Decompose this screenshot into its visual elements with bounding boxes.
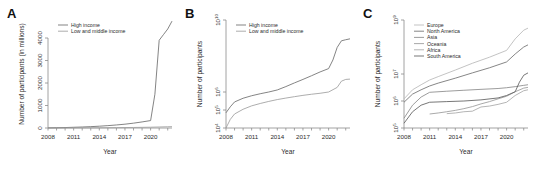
svg-text:2008: 2008 [41,133,55,140]
panel-c: C 10510610710920082011201420172020YearNu… [356,0,534,171]
svg-text:Asia: Asia [427,34,437,40]
svg-text:2000: 2000 [36,76,43,90]
panel-a: A 0100020003000400020082011201420172020Y… [0,0,178,171]
svg-text:Oceania: Oceania [427,41,446,47]
svg-text:Number of participants (in mil: Number of participants (in millions) [18,23,26,125]
svg-text:2014: 2014 [92,133,106,140]
svg-text:105: 105 [392,123,399,133]
svg-text:1010: 1010 [214,14,221,26]
svg-text:Low and middle income: Low and middle income [249,28,304,34]
svg-text:Low and middle income: Low and middle income [71,28,126,34]
svg-text:109: 109 [392,15,399,25]
svg-text:2014: 2014 [448,133,462,140]
panel-b-plot: 104105106101020082011201420172020YearNum… [178,0,356,171]
svg-text:2011: 2011 [245,133,259,140]
panel-c-plot: 10510610710920082011201420172020YearNumb… [356,0,534,171]
svg-text:2017: 2017 [474,133,488,140]
panel-b: B 104105106101020082011201420172020YearN… [178,0,356,171]
svg-text:Number of participants: Number of participants [374,40,382,107]
figure-container: A 0100020003000400020082011201420172020Y… [0,0,534,171]
svg-text:2020: 2020 [144,133,158,140]
svg-text:2011: 2011 [67,133,81,140]
svg-text:Year: Year [103,148,117,155]
svg-text:104: 104 [214,123,221,133]
svg-text:107: 107 [392,69,399,79]
svg-text:2008: 2008 [219,133,233,140]
svg-text:Africa: Africa [427,47,440,53]
svg-text:2020: 2020 [322,133,336,140]
svg-text:4000: 4000 [36,31,43,45]
svg-text:106: 106 [392,96,399,106]
svg-text:2008: 2008 [397,133,411,140]
svg-text:1000: 1000 [36,98,43,112]
svg-text:High income: High income [249,22,278,28]
svg-text:106: 106 [214,87,221,97]
svg-text:Europe: Europe [427,22,444,28]
svg-text:High income: High income [71,22,100,28]
svg-text:2017: 2017 [118,133,132,140]
svg-text:Year: Year [281,148,295,155]
svg-text:0: 0 [36,126,43,130]
svg-text:2017: 2017 [296,133,310,140]
svg-text:South America: South America [427,53,461,59]
svg-text:Number of participants: Number of participants [196,40,204,107]
svg-text:2020: 2020 [500,133,514,140]
svg-text:2011: 2011 [423,133,437,140]
svg-text:North America: North America [427,28,460,34]
svg-text:3000: 3000 [36,53,43,67]
svg-text:Year: Year [459,148,473,155]
panel-a-plot: 0100020003000400020082011201420172020Yea… [0,0,178,171]
svg-text:2014: 2014 [270,133,284,140]
svg-text:105: 105 [214,105,221,115]
